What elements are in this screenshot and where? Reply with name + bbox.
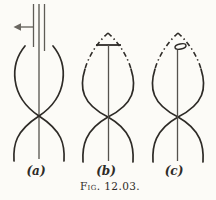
figure-12-03: (a) (b) (c) Fig xyxy=(0,0,216,200)
diagram-b-label: (b) xyxy=(96,164,116,178)
diagram-a-label: (a) xyxy=(26,164,45,178)
diagram-c: (c) xyxy=(152,33,203,178)
small-loop-icon xyxy=(175,43,187,50)
figure-caption: Fig. 12.03. xyxy=(80,180,140,192)
figure-drawing: (a) (b) (c) Fig xyxy=(0,0,216,200)
diagram-a: (a) xyxy=(14,4,65,178)
left-arrow-icon xyxy=(14,23,22,31)
curve-left-to-right xyxy=(82,69,133,162)
diagram-c-label: (c) xyxy=(165,164,184,178)
apex-dashed-left xyxy=(155,33,178,69)
diagram-b: (b) xyxy=(82,33,133,178)
apex-dashed-right xyxy=(178,33,201,69)
curve-right-to-left xyxy=(153,69,204,162)
apex-dashed-left xyxy=(85,33,108,69)
apex-dashed-right xyxy=(108,33,131,69)
